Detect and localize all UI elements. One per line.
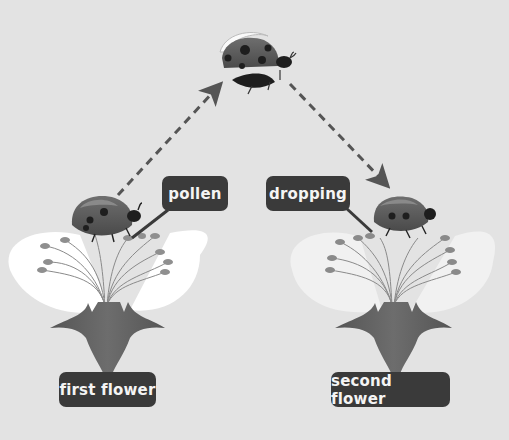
ladybird-first-flower-icon <box>72 196 142 242</box>
second-flower-illustration <box>291 232 496 375</box>
pollination-diagram: pollen dropping first flower second flow… <box>0 0 509 440</box>
second-flower-label: second flower <box>331 372 450 407</box>
ladybird-flying-icon <box>220 33 296 94</box>
first-flower-label: first flower <box>59 372 156 407</box>
first-flower-illustration <box>8 230 207 375</box>
flight-arrow-down <box>290 84 382 180</box>
dropping-leader-line <box>346 208 372 232</box>
ladybird-second-flower-icon <box>374 196 436 238</box>
pollen-label: pollen <box>162 176 228 211</box>
dropping-label: dropping <box>266 176 350 211</box>
